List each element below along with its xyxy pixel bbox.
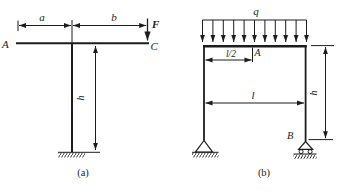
- roller-support-hatch-icon: [294, 155, 317, 159]
- figure-a: a b F h A C (a): [1, 11, 160, 179]
- dim-span-label: l: [251, 89, 254, 101]
- figure-b: q l/2 A l h: [192, 5, 334, 179]
- roller-support-icon: [299, 142, 313, 150]
- point-label-A-b: A: [254, 47, 262, 58]
- pin-support-hatch-icon: [192, 153, 219, 158]
- dim-h-label-a: h: [75, 96, 86, 101]
- support-label-B: B: [287, 130, 294, 141]
- caption-b: (b): [258, 167, 271, 179]
- caption-a: (a): [77, 167, 89, 179]
- point-label-A: A: [1, 38, 9, 50]
- diagram-canvas: a b F h A C (a) q: [0, 0, 345, 192]
- fixed-support-hatch-icon: [58, 153, 85, 158]
- load-label: q: [253, 5, 259, 17]
- roller-wheel-right-icon: [308, 150, 312, 154]
- dim-a-label: a: [39, 11, 45, 23]
- load-arrows-icon: [203, 20, 307, 42]
- pin-support-icon: [196, 141, 213, 153]
- force-label: F: [151, 18, 160, 30]
- point-label-C: C: [151, 40, 159, 52]
- dim-half-span-label: l/2: [226, 49, 236, 59]
- dim-h-label-b: h: [308, 91, 319, 96]
- roller-wheel-left-icon: [299, 150, 303, 154]
- structural-diagram: a b F h A C (a) q: [0, 0, 345, 192]
- dim-b-label: b: [111, 11, 117, 23]
